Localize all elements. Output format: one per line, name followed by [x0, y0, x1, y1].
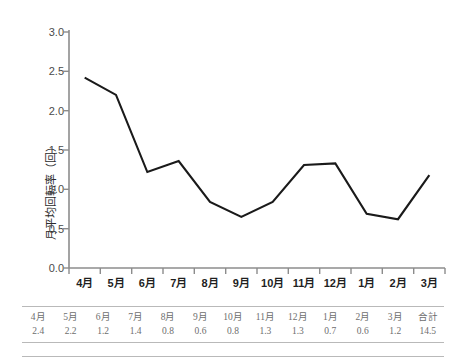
x-tick-label: 10月	[261, 274, 284, 290]
data-line-series	[85, 78, 430, 220]
table-value-cell: 2.2	[54, 325, 86, 339]
data-table: 4月5月6月7月8月9月10月11月12月1月2月3月合計 2.42.21.21…	[22, 306, 444, 339]
table-header-cell: 8月	[152, 306, 184, 325]
table-value-cell: 0.7	[314, 325, 346, 339]
table-header-cell: 1月	[314, 306, 346, 325]
x-tick-label: 5月	[107, 274, 124, 290]
x-tick-label: 8月	[201, 274, 218, 290]
table-header-cell: 6月	[87, 306, 119, 325]
table-value-cell: 14.5	[411, 325, 444, 339]
table-bottom-rule	[22, 342, 444, 343]
table-row-headers: 4月5月6月7月8月9月10月11月12月1月2月3月合計	[22, 306, 444, 325]
table-row-values: 2.42.21.21.40.80.60.81.31.30.70.61.214.5	[22, 325, 444, 339]
x-axis-labels: 4月 5月 6月 7月 8月 9月 10月 11月 12月 1月 2月 3月	[0, 274, 465, 294]
table-value-cell: 1.2	[379, 325, 411, 339]
table-value-cell: 2.4	[22, 325, 54, 339]
plot-canvas	[0, 0, 465, 300]
footer-rule	[22, 356, 444, 357]
table-header-cell: 3月	[379, 306, 411, 325]
table-header-cell: 2月	[347, 306, 379, 325]
x-tick-label: 4月	[76, 274, 93, 290]
table-value-cell: 0.8	[152, 325, 184, 339]
x-tick-label: 3月	[421, 274, 438, 290]
x-tick-label: 11月	[293, 274, 316, 290]
table-header-cell: 4月	[22, 306, 54, 325]
figure: 月平均回転率（回） 3.0 2.5 2.0 1.5 1.0 0.5 0.0	[0, 0, 465, 364]
table-value-cell: 1.2	[87, 325, 119, 339]
table-value-cell: 1.3	[282, 325, 314, 339]
table-header-cell: 5月	[54, 306, 86, 325]
table-value-cell: 0.8	[217, 325, 249, 339]
x-tick-label: 9月	[233, 274, 250, 290]
table-value-cell: 0.6	[184, 325, 216, 339]
table-value-cell: 1.3	[249, 325, 281, 339]
table-header-cell: 7月	[119, 306, 151, 325]
table-header-cell: 9月	[184, 306, 216, 325]
x-tick-label: 12月	[324, 274, 347, 290]
x-tick-label: 1月	[358, 274, 375, 290]
table-value-cell: 1.4	[119, 325, 151, 339]
x-tick-label: 6月	[139, 274, 156, 290]
table-header-cell: 12月	[282, 306, 314, 325]
line-chart: 月平均回転率（回） 3.0 2.5 2.0 1.5 1.0 0.5 0.0	[0, 0, 465, 300]
table-header-cell: 合計	[411, 306, 444, 325]
table-header-cell: 10月	[217, 306, 249, 325]
x-tick-label: 2月	[389, 274, 406, 290]
table-header-cell: 11月	[249, 306, 281, 325]
x-tick-label: 7月	[170, 274, 187, 290]
data-table-wrap: 4月5月6月7月8月9月10月11月12月1月2月3月合計 2.42.21.21…	[22, 306, 444, 339]
y-tick-marks	[63, 32, 69, 268]
table-value-cell: 0.6	[347, 325, 379, 339]
